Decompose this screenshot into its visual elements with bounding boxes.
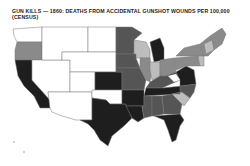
region-new-mexico-arizona [48, 92, 92, 120]
region-wisconsin [134, 40, 150, 58]
speck [13, 141, 15, 143]
region-colorado [70, 72, 95, 92]
region-oregon [15, 42, 42, 60]
region-arkansas [122, 90, 144, 106]
region-dakota [88, 27, 116, 52]
region-new-england [200, 28, 226, 56]
speck [23, 151, 25, 153]
region-florida [154, 114, 184, 142]
choropleth-map [0, 0, 250, 166]
region-kansas [95, 72, 122, 90]
region-new-york [176, 44, 204, 56]
region-nebraska [62, 52, 116, 72]
region-michigan [150, 38, 164, 62]
region-washington [13, 27, 42, 42]
